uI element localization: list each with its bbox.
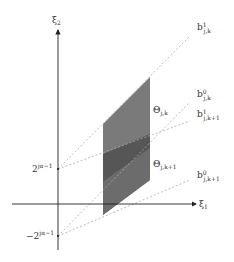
- xi2-label: ξ2: [52, 15, 61, 26]
- label-theta-jk1: Θj,k+1: [153, 159, 177, 171]
- label-b1-jk1: b1j,k+1: [197, 108, 220, 122]
- tick-pos: [57, 168, 59, 170]
- label-b0-jk1: b0j,k+1: [197, 169, 220, 183]
- xi1-label: ξ1: [199, 199, 208, 210]
- tick-label-pos: 2jα−1: [32, 162, 53, 174]
- tick-neg: [57, 235, 59, 237]
- label-b1-jk: b1j,k: [197, 21, 211, 35]
- parallelogram-diagram: ξ2 ξ1 2jα−1 −2jα−1 Θj,k Θj,k+1 b1j,k b0j…: [0, 0, 234, 262]
- label-b0-jk: b0j,k: [197, 88, 211, 102]
- tick-label-neg: −2jα−1: [26, 229, 54, 241]
- label-theta-jk: Θj,k: [153, 105, 168, 117]
